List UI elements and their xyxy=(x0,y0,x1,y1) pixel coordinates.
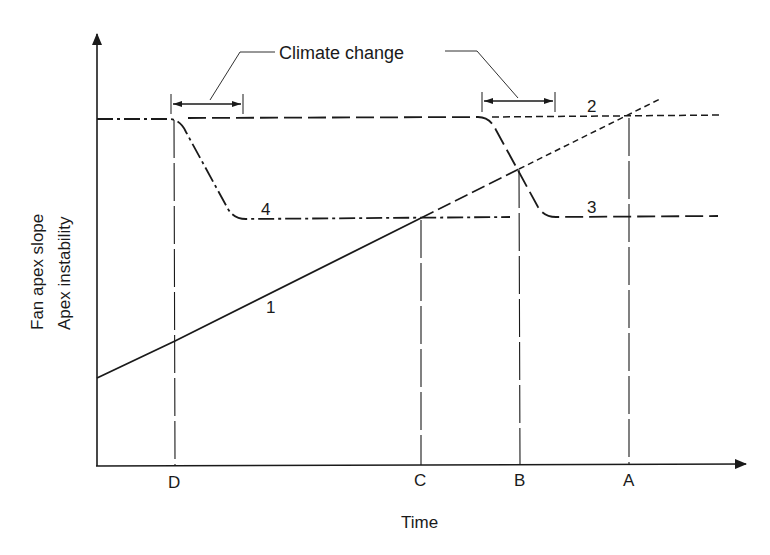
curve-label-1: 1 xyxy=(266,298,275,317)
curve-1-long-dash xyxy=(421,169,519,218)
time-marker-label-d: D xyxy=(168,473,180,492)
time-marker-lines xyxy=(174,118,629,465)
x-axis-label: Time xyxy=(401,513,438,532)
marker-line-b xyxy=(519,170,520,465)
climate-change-label: Climate change xyxy=(279,43,404,63)
curve-2 xyxy=(492,115,723,117)
y-axis-label-line2: Apex instability xyxy=(55,216,74,330)
curve-label-3: 3 xyxy=(587,198,596,217)
time-marker-label-a: A xyxy=(623,471,635,490)
curve-label-4: 4 xyxy=(261,200,270,219)
curve-1 xyxy=(97,98,662,378)
curve-label-2: 2 xyxy=(587,97,596,116)
time-marker-label-c: C xyxy=(414,471,426,490)
time-marker-label-b: B xyxy=(514,471,525,490)
climate-change-bracket-1 xyxy=(171,94,243,114)
fan-apex-diagram: Climate change 2 3 4 1 D C B A Time Fan … xyxy=(0,0,770,555)
marker-line-d xyxy=(174,120,175,465)
climate-change-bracket-2 xyxy=(482,92,555,112)
curve-1-solid xyxy=(97,218,421,378)
y-axis-label-line1: Fan apex slope xyxy=(28,214,47,330)
